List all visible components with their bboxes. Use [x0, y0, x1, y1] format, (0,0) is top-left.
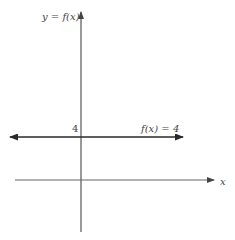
graph-canvas [0, 0, 235, 240]
function-line-label: f(x) = 4 [141, 124, 179, 134]
y-axis-label-rhs: f(x) [62, 11, 79, 22]
function-graph: y = f(x) 4 f(x) = 4 x [0, 0, 235, 240]
y-axis-label-eq: = [48, 11, 63, 22]
x-axis-label: x [220, 177, 226, 187]
y-tick-label: 4 [72, 124, 78, 134]
y-axis-label: y = f(x) [42, 12, 80, 22]
